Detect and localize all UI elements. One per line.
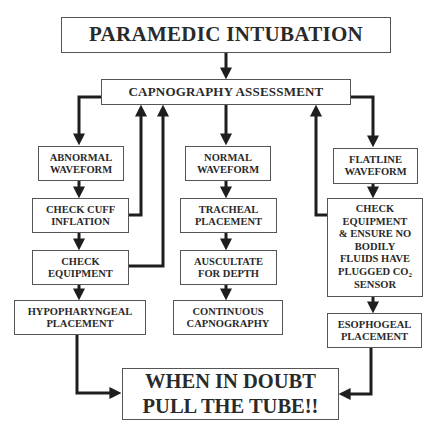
esophageal-placement-box: ESOPHOGEAL PLACEMENT [327, 313, 422, 348]
box-line: FLATLINE [349, 154, 402, 166]
continuous-capnography-box: CONTINUOUS CAPNOGRAPHY [173, 300, 283, 335]
hypopharyngeal-placement-box: HYPOPHARYNGEAL PLACEMENT [14, 300, 146, 335]
title-text: PARAMEDIC INTUBATION [89, 23, 363, 47]
assessment-text: CAPNOGRAPHY ASSESSMENT [129, 85, 324, 100]
box-line: WAVEFORM [50, 164, 112, 176]
auscultate-for-depth-box: AUSCULTATE FOR DEPTH [180, 250, 277, 285]
tracheal-placement-box: TRACHEAL PLACEMENT [180, 198, 277, 233]
box-line: INFLATION [51, 216, 110, 228]
box-line: WAVEFORM [197, 164, 259, 176]
box-line: NORMAL [204, 152, 252, 164]
arrow-check-equipment-back-to-assessment [316, 110, 327, 215]
arrow-hypopharyngeal-to-conclusion [77, 334, 116, 393]
box-line: CHECK CUFF [46, 204, 115, 216]
conclusion-box: WHEN IN DOUBT PULL THE TUBE!! [122, 368, 339, 420]
box-line: BODILY [355, 241, 395, 254]
conclusion-line: WHEN IN DOUBT [145, 369, 316, 394]
conclusion-line: PULL THE TUBE!! [143, 394, 319, 419]
box-line: TRACHEAL [199, 204, 259, 216]
box-line: FLUIDS HAVE [340, 253, 410, 266]
check-cuff-inflation-box: CHECK CUFF INFLATION [32, 198, 129, 233]
assessment-box: CAPNOGRAPHY ASSESSMENT [101, 79, 351, 105]
arrow-cuff-back-to-assessment [128, 110, 141, 215]
box-line: PLACEMENT [46, 318, 113, 330]
box-line: CAPNOGRAPHY [187, 318, 270, 330]
title-box: PARAMEDIC INTUBATION [61, 17, 391, 53]
check-equipment-left-box: CHECK EQUIPMENT [32, 250, 129, 285]
check-equipment-bodily-fluids-box: CHECK EQUIPMENT & ENSURE NO BODILY FLUID… [327, 198, 423, 297]
box-line: CHECK [61, 256, 100, 268]
box-line: WAVEFORM [344, 166, 406, 178]
arrow-assessment-to-flatline [350, 97, 373, 142]
abnormal-waveform-box: ABNORMAL WAVEFORM [38, 146, 124, 181]
arrow-equipment-back-to-assessment [128, 110, 163, 266]
box-line: CONTINUOUS [192, 306, 263, 318]
box-line: CHECK [356, 203, 395, 216]
box-line: AUSCULTATE [194, 256, 263, 268]
box-line: & ENSURE NO [339, 228, 411, 241]
box-line: PLACEMENT [341, 331, 408, 343]
co2-text: PLUGGED CO [338, 266, 408, 277]
box-line-co2: PLUGGED CO2 [338, 266, 412, 279]
box-line: EQUIPMENT [48, 268, 113, 280]
box-line: PLACEMENT [195, 216, 262, 228]
box-line: HYPOPHARYNGEAL [28, 306, 133, 318]
flatline-waveform-box: FLATLINE WAVEFORM [333, 148, 418, 184]
box-line: ABNORMAL [50, 152, 112, 164]
co2-subscript: 2 [408, 271, 412, 279]
box-line: FOR DEPTH [198, 268, 259, 280]
box-line: SENSOR [354, 279, 396, 292]
box-line: EQUIPMENT [343, 216, 408, 229]
arrow-esophageal-to-conclusion [344, 347, 371, 394]
arrow-assessment-to-abnormal [79, 97, 101, 140]
box-line: ESOPHOGEAL [338, 319, 412, 331]
normal-waveform-box: NORMAL WAVEFORM [185, 146, 271, 181]
